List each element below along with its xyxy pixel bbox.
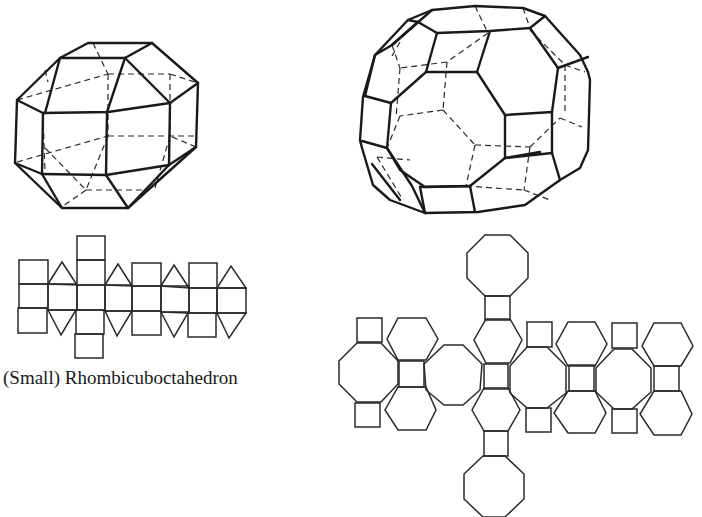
net-hexagons <box>385 318 693 435</box>
net-squares-right <box>355 296 679 456</box>
truncated-cuboctahedron-net <box>0 0 702 517</box>
net-octagons <box>339 235 651 517</box>
